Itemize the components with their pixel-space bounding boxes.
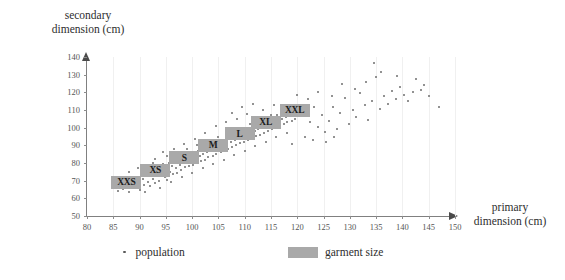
x-tick-mark-100 — [192, 216, 193, 219]
data-point — [204, 132, 206, 134]
data-point — [162, 151, 164, 153]
data-point — [325, 141, 327, 143]
garment-size-box-xs: XS — [140, 164, 170, 177]
data-point — [365, 81, 367, 83]
gridline-x-120 — [297, 57, 298, 216]
data-point — [180, 169, 182, 171]
y-tick-label-90: 90 — [54, 140, 80, 150]
data-point — [263, 132, 265, 134]
gridline-x-115 — [271, 57, 272, 216]
x-tick-mark-150 — [455, 216, 456, 219]
y-tick-label-50: 50 — [54, 211, 80, 221]
data-point — [233, 154, 235, 156]
data-point — [231, 112, 233, 114]
plot-area: XXSXSSMLXLXXL — [87, 57, 455, 216]
data-point — [273, 104, 275, 106]
data-point — [333, 136, 335, 138]
x-tick-mark-95 — [166, 216, 167, 219]
data-point — [166, 155, 168, 157]
data-point — [212, 163, 214, 165]
data-point — [275, 136, 277, 138]
x-axis-title: primary dimension (cm) — [455, 200, 565, 228]
data-point — [225, 121, 227, 123]
x-tick-label-150: 150 — [440, 222, 470, 232]
x-tick-mark-120 — [297, 216, 298, 219]
data-point — [321, 114, 323, 116]
garment-size-swatch-icon — [288, 247, 318, 258]
data-point — [317, 91, 319, 93]
x-tick-mark-105 — [218, 216, 219, 219]
data-point — [166, 179, 168, 181]
data-point — [403, 94, 405, 96]
data-point — [172, 173, 174, 175]
data-point — [407, 100, 409, 102]
data-point — [128, 191, 130, 193]
data-point — [355, 116, 357, 118]
gridline-x-135 — [376, 57, 377, 216]
data-point — [283, 123, 285, 125]
x-tick-mark-90 — [140, 216, 141, 219]
data-point — [149, 185, 151, 187]
data-point — [399, 86, 401, 88]
data-point — [286, 132, 288, 134]
data-point — [291, 143, 293, 145]
data-point — [181, 176, 183, 178]
data-point — [395, 98, 397, 100]
data-point — [194, 138, 196, 140]
data-point — [341, 83, 343, 85]
data-point — [152, 178, 154, 180]
data-point — [359, 92, 361, 94]
y-axis-title: secondary dimension (cm) — [18, 8, 158, 36]
y-tick-label-130: 130 — [54, 70, 80, 80]
data-point — [215, 153, 217, 155]
data-point — [183, 143, 185, 145]
x-tick-mark-130 — [350, 216, 351, 219]
data-point — [309, 121, 311, 123]
data-point — [117, 190, 119, 192]
data-point — [255, 135, 257, 137]
data-point — [352, 109, 354, 111]
data-point — [231, 146, 233, 148]
y-tick-label-70: 70 — [54, 176, 80, 186]
data-point — [176, 172, 178, 174]
y-tick-label-80: 80 — [54, 158, 80, 168]
data-point — [336, 128, 338, 130]
garment-size-box-s: S — [169, 151, 199, 164]
gridline-x-85 — [113, 57, 114, 216]
data-point — [158, 180, 160, 182]
data-point — [147, 181, 149, 183]
x-tick-mark-135 — [376, 216, 377, 219]
data-point — [262, 109, 264, 111]
data-point — [281, 118, 283, 120]
data-point — [339, 112, 341, 114]
data-point — [212, 155, 214, 157]
garment-size-box-xl: XL — [251, 116, 281, 129]
data-point — [186, 148, 188, 150]
data-point — [144, 191, 146, 193]
gridline-x-90 — [140, 57, 141, 216]
data-point — [236, 118, 238, 120]
data-point — [259, 134, 261, 136]
data-point — [143, 184, 145, 186]
x-tick-mark-145 — [429, 216, 430, 219]
data-point — [373, 62, 375, 64]
data-point — [383, 95, 385, 97]
data-point — [202, 153, 204, 155]
data-point — [170, 181, 172, 183]
data-point — [154, 182, 156, 184]
data-point — [331, 95, 333, 97]
data-point — [324, 131, 326, 133]
x-tick-mark-85 — [113, 216, 114, 219]
gridline-x-140 — [402, 57, 403, 216]
data-point — [173, 148, 175, 150]
data-point — [137, 167, 139, 169]
data-point — [307, 98, 309, 100]
data-point — [171, 165, 173, 167]
data-point — [230, 141, 232, 143]
data-point — [202, 167, 204, 169]
x-tick-mark-80 — [87, 216, 88, 219]
legend-item-population: population — [120, 246, 185, 258]
data-point — [387, 103, 389, 105]
data-point — [291, 120, 293, 122]
data-point — [294, 118, 296, 120]
